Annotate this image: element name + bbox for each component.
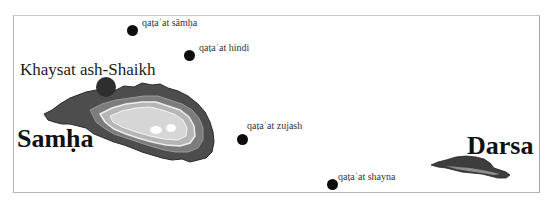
site-marker-icon[interactable]: [184, 50, 195, 61]
site-marker-icon[interactable]: [327, 179, 338, 190]
khaysat-marker-icon: [96, 77, 116, 97]
site-label-qataat-shayna: qaṭaʿat shayna: [338, 172, 395, 182]
map-shapes: [0, 0, 552, 207]
site-marker-icon[interactable]: [237, 134, 248, 145]
site-label-qataat-hindi: qaṭaʿat hindi: [199, 43, 249, 53]
place-label-khaysat-ash-shaikh: Khaysat ash-Shaikh: [20, 61, 156, 78]
island-label-samha: Samḥa: [17, 126, 94, 152]
site-label-qataat-samha: qaṭaʿat sāmḥa: [142, 18, 197, 28]
site-label-qataat-zujash: qaṭaʿat zujash: [247, 121, 302, 131]
island-label-darsa: Darsa: [467, 133, 533, 159]
site-marker-icon[interactable]: [127, 25, 138, 36]
